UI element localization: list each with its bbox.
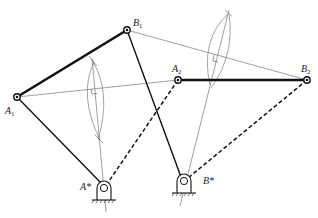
label-A2: A2 [171,63,182,76]
chord-B1-B2 [127,30,307,80]
linkage-diagram: A1 B1 A2 B2 A* B* [0,0,318,218]
joint-B2 [304,77,310,83]
label-A1: A1 [4,105,15,118]
crank-B-position-2 [188,80,307,178]
label-B2: B2 [301,63,311,76]
label-A-star: A* [79,181,91,192]
arc-bisector-B-left [207,14,228,85]
label-B-star: B* [203,175,214,186]
arc-bisector-A-right [92,60,104,140]
joint-A1 [14,94,20,100]
right-angle-mark-A [91,89,97,94]
crank-A-position-1 [17,97,103,185]
crank-A-position-2 [107,80,178,184]
fixed-pivot-A-star [92,181,116,203]
label-B1: B1 [133,17,143,30]
fixed-pivot-B-star [172,174,196,196]
arc-bisector-B-right [211,14,230,88]
crank-B-position-1 [127,30,181,177]
joint-B1 [124,27,130,33]
joint-A2 [175,77,181,83]
